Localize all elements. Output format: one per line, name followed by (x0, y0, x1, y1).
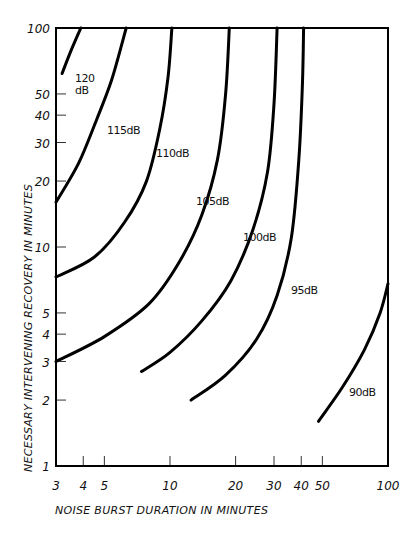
curve-label-115db: 115dB (107, 124, 140, 137)
curve-95db (191, 28, 304, 400)
curve-label-110db: 110dB (156, 147, 189, 160)
curve-label-105db: 105dB (196, 195, 229, 208)
x-axis-title: NOISE BURST DURATION IN MINUTES (55, 504, 268, 517)
x-tick-label: 4 (79, 479, 87, 493)
curve-label-95db: 95dB (291, 284, 318, 297)
curve-120db (62, 28, 81, 74)
x-tick-label: 30 (266, 479, 282, 493)
chart: 3451020304050100123451020304050100 120 d… (0, 0, 412, 538)
y-tick-label: 2 (42, 394, 50, 408)
x-tick-label: 10 (162, 479, 178, 493)
x-tick-label: 20 (228, 479, 244, 493)
y-tick-label: 1 (42, 460, 50, 474)
y-axis-title: NECESSARY INTERVENING RECOVERY IN MINUTE… (22, 184, 35, 472)
y-tick-label: 10 (35, 241, 51, 255)
y-tick-label: 3 (42, 356, 50, 370)
x-tick-label: 50 (315, 479, 331, 493)
y-tick-label: 30 (35, 137, 51, 151)
y-tick-label: 50 (35, 88, 51, 102)
curve-115db (56, 28, 126, 202)
curve-110db (56, 28, 172, 277)
x-tick-label: 5 (101, 479, 109, 493)
y-tick-label: 4 (42, 328, 50, 342)
curve-90db (319, 284, 389, 422)
y-tick-label: 100 (27, 22, 50, 36)
curve-label-100db: 100dB (243, 231, 276, 244)
curve-label-90db: 90dB (349, 386, 376, 399)
x-tick-label: 40 (294, 479, 310, 493)
curve-label-120db-line2: dB (75, 84, 89, 97)
curves (56, 28, 388, 421)
x-tick-label: 3 (52, 479, 60, 493)
y-tick-label: 20 (35, 175, 51, 189)
y-tick-label: 40 (35, 109, 51, 123)
y-tick-label: 5 (42, 307, 50, 321)
x-tick-label: 100 (377, 479, 400, 493)
